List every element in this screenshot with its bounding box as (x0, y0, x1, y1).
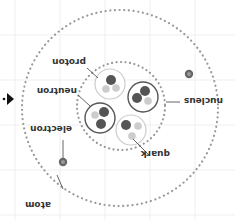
label-neutron: neutron (37, 86, 77, 96)
label-atom: atom (25, 200, 51, 210)
label-proton: proton (52, 57, 86, 67)
background-grid (0, 0, 235, 220)
label-electron: electron (30, 124, 72, 134)
proton-left (85, 103, 115, 133)
neutron-bottom (116, 115, 146, 145)
label-quark: quark (140, 149, 170, 159)
arrow-icon (3, 93, 14, 105)
neutron-top (95, 69, 125, 99)
atom-diagram: proton neutron nucleus quark electron at… (0, 0, 235, 220)
proton-right (128, 82, 158, 112)
label-nucleus: nucleus (184, 96, 223, 106)
atom-boundary (22, 10, 218, 206)
